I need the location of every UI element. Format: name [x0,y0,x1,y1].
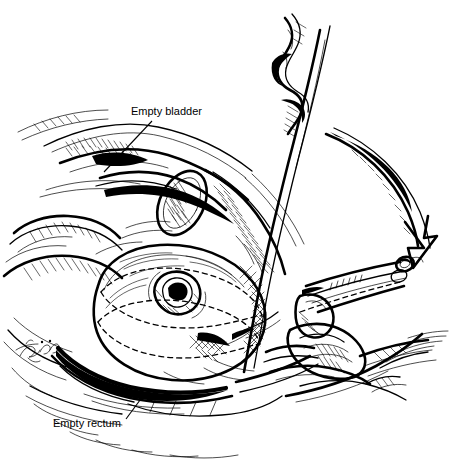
empty-bladder-label-text: Empty bladder [131,105,202,117]
illustration-canvas: Empty bladder Empty rectum [0,0,453,468]
medical-illustration-figure: Empty bladder Empty rectum [0,0,453,468]
empty-rectum-label-text: Empty rectum [53,417,121,429]
